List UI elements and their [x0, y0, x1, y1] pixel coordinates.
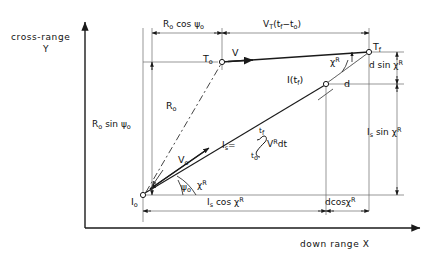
- angle-arc-tf: [342, 52, 352, 72]
- formula-I-sub: s: [225, 144, 228, 152]
- dsin-chi-sup: R: [399, 59, 404, 67]
- formula-dt: dt: [278, 139, 287, 149]
- T0-main: T: [203, 53, 209, 64]
- vector-geometry-diagram: cross-range Y down range X Ro cos ψo VT(…: [0, 0, 437, 267]
- issin-chi-sup: R: [397, 126, 402, 134]
- formula-V-sup: R: [273, 138, 278, 146]
- issin-sub: s: [370, 131, 373, 139]
- vt-sub: T: [269, 23, 273, 31]
- vector-label-V0: Vo: [178, 155, 188, 165]
- miss-distance-d: [318, 53, 368, 100]
- vector-label-V: V: [232, 48, 239, 58]
- angle-label-chiR-origin: χR: [197, 181, 207, 190]
- y-axis-label-line2: Y: [43, 45, 49, 54]
- r0sin-sin: sin: [105, 119, 118, 129]
- angle-label-chiR-top: χR: [330, 58, 340, 67]
- formula-integrand: VRdt: [267, 140, 287, 149]
- formula-upper-sub: f: [262, 129, 264, 137]
- chiR-top-sup: R: [335, 56, 340, 64]
- dcos-chi-sup: R: [351, 196, 356, 204]
- r0cos-psi-sub: o: [200, 23, 204, 31]
- I0-sub: o: [134, 201, 138, 209]
- dcos-text: dcos: [325, 197, 346, 207]
- vt-f: f: [280, 23, 282, 31]
- angle-label-psi0: ψo: [181, 183, 191, 192]
- iscos-chi-sup: R: [239, 196, 244, 204]
- dimension-label-iscos: Is cos χR: [207, 198, 244, 207]
- dimension-label-dsin: d sin χR: [369, 61, 403, 70]
- velocity-vector-V: [228, 60, 253, 62]
- Itf-tail: ): [300, 74, 304, 85]
- R0-sub: o: [173, 105, 177, 113]
- Tf-main: T: [373, 41, 379, 52]
- issin-sin: sin: [376, 127, 389, 137]
- Itf-sub: f: [297, 79, 299, 87]
- dimension-label-r0cos: Ro cos ψo: [163, 20, 204, 29]
- vt-close: ): [298, 19, 302, 29]
- vector-label-R0: Ro: [166, 101, 177, 111]
- formula-lhs: Is=: [222, 141, 236, 150]
- point-label-T0: To: [203, 54, 213, 64]
- V0-main: V: [178, 154, 185, 165]
- x-axis-label: down range X: [300, 240, 370, 249]
- r0sin-psi: ψ: [121, 119, 127, 129]
- Tf-sub: f: [379, 46, 381, 54]
- iscos-sub: s: [210, 201, 213, 209]
- r0cos-sub: o: [169, 23, 173, 31]
- V0-sub: o: [185, 159, 189, 167]
- dimension-label-issin: Is sin χR: [367, 128, 401, 137]
- r0sin-sub: o: [98, 123, 102, 131]
- T0-sub: o: [209, 58, 213, 66]
- point-label-Itf: I(tf): [287, 75, 303, 85]
- dsin-text: d sin: [369, 60, 390, 70]
- dimension-label-vt: VT(tf−to): [263, 20, 301, 29]
- psi0-sub: o: [187, 186, 191, 194]
- formula-lower-sub: o: [254, 154, 258, 162]
- point-label-Tf: Tf: [373, 42, 381, 52]
- point-label-I0: Io: [131, 197, 138, 207]
- dimension-label-dcos: dcosχR: [325, 198, 356, 207]
- formula-upper-limit: tf: [259, 127, 264, 135]
- construction-lines: [143, 28, 404, 222]
- formula-equals: =: [228, 140, 236, 150]
- vector-label-d: d: [344, 79, 350, 89]
- R0-main: R: [166, 100, 173, 111]
- vt-o: o: [294, 23, 298, 31]
- r0cos-cos: cos: [176, 19, 191, 29]
- range-vector-R0: [146, 64, 221, 192]
- iscos-cos: cos: [216, 197, 231, 207]
- formula-lower-limit: to: [251, 152, 258, 160]
- dsin-chi: χ: [393, 60, 398, 70]
- r0sin-psi-sub: o: [127, 123, 131, 131]
- dimension-label-r0sin: Ro sin ψo: [92, 120, 131, 129]
- chiR-origin-sup: R: [202, 179, 207, 187]
- Itf-main: I(t: [287, 74, 297, 85]
- y-axis-label-line1: cross-range: [11, 33, 70, 42]
- vt-minus: −t: [283, 19, 294, 29]
